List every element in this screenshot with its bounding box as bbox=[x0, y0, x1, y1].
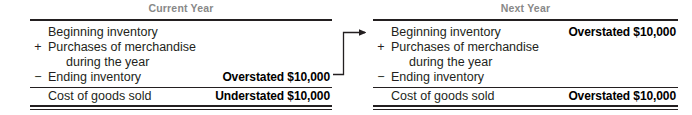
table-row: Beginning inventory Overstated $10,000 bbox=[373, 25, 678, 40]
table-bottom-rule-outer bbox=[373, 105, 678, 107]
table-row: + Purchases of merchandise bbox=[373, 40, 678, 55]
table-row: − Ending inventory bbox=[373, 70, 678, 85]
panel-title-next-year: Next Year bbox=[373, 2, 678, 14]
row-label: Ending inventory bbox=[391, 70, 484, 85]
table-top-rule bbox=[30, 19, 332, 21]
row-label: Ending inventory bbox=[48, 70, 141, 85]
table-row: + Purchases of merchandise bbox=[30, 40, 332, 55]
inventory-error-flow-figure: Current Year Beginning inventory + Purch… bbox=[0, 0, 692, 115]
panel-next-year: Next Year Beginning inventory Overstated… bbox=[373, 0, 678, 115]
row-operator: + bbox=[375, 40, 387, 55]
row-label: Beginning inventory bbox=[391, 25, 501, 40]
row-operator: + bbox=[32, 40, 44, 55]
table-row: Beginning inventory bbox=[30, 25, 332, 40]
table-row: − Ending inventory Overstated $10,000 bbox=[30, 70, 332, 85]
row-amount: Understated $10,000 bbox=[215, 89, 330, 104]
panel-current-year: Current Year Beginning inventory + Purch… bbox=[30, 0, 332, 115]
row-operator: − bbox=[375, 70, 387, 85]
row-label: Cost of goods sold bbox=[391, 89, 495, 104]
row-operator: − bbox=[32, 70, 44, 85]
table-row-total: Cost of goods sold Overstated $10,000 bbox=[373, 89, 678, 104]
row-label: Purchases of merchandise bbox=[391, 40, 539, 55]
row-label: Purchases of merchandise bbox=[48, 40, 196, 55]
row-label: Cost of goods sold bbox=[48, 89, 152, 104]
row-amount: Overstated $10,000 bbox=[222, 70, 330, 85]
row-amount: Overstated $10,000 bbox=[568, 25, 676, 40]
row-amount: Overstated $10,000 bbox=[568, 89, 676, 104]
table-bottom-rule-inner bbox=[30, 109, 332, 110]
table-row: during the year bbox=[373, 55, 678, 70]
row-label: Beginning inventory bbox=[48, 25, 158, 40]
table-top-rule bbox=[373, 19, 678, 21]
row-label: during the year bbox=[66, 55, 149, 70]
table-row: during the year bbox=[30, 55, 332, 70]
row-label: during the year bbox=[409, 55, 492, 70]
panel-title-current-year: Current Year bbox=[30, 2, 332, 14]
table-row-total: Cost of goods sold Understated $10,000 bbox=[30, 89, 332, 104]
table-bottom-rule-inner bbox=[373, 109, 678, 110]
table-bottom-rule-outer bbox=[30, 105, 332, 107]
